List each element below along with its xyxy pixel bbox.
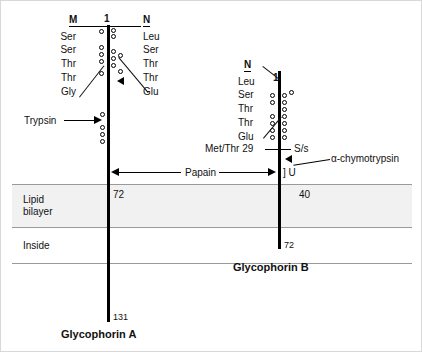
o-glycan (270, 100, 275, 105)
antigen-n-b-residue-2: Thr (238, 102, 253, 115)
o-glycan (270, 93, 275, 98)
chymotrypsin-arrow-head (285, 155, 292, 163)
antigen-m-residue-1: Ser (41, 43, 76, 56)
antigen-n-a-residue-1: Ser (143, 43, 159, 56)
antigen-n-b-residue-4: Glu (238, 130, 254, 143)
antigen-n-b-residue-3: Thr (238, 116, 253, 129)
o-glycan (99, 52, 104, 57)
o-glycan (111, 28, 116, 33)
glycophorin-b-title: Glycophorin B (233, 262, 309, 273)
antigen-n-label-a: N (143, 14, 150, 27)
o-glycan (99, 45, 104, 50)
antigen-m-residue-3: Thr (41, 71, 76, 84)
papain-arrow-line-left (119, 172, 181, 173)
o-glycan (270, 135, 275, 140)
glycophorin-a-title: Glycophorin A (61, 329, 136, 340)
chymotrypsin-label: α-chymotrypsin (331, 153, 399, 164)
o-glycan (118, 69, 123, 74)
antigen-m-residue-4: Gly (41, 85, 76, 98)
inside-boundary-line (12, 263, 412, 264)
antigen-n-b-residue-1: Ser (238, 88, 254, 101)
glycophorin-a-residue-72: 72 (113, 189, 124, 200)
antigen-m-residue-0: Ser (41, 30, 76, 43)
o-glycan (99, 59, 104, 64)
o-glycan (118, 53, 123, 58)
o-glycan (282, 114, 287, 119)
trypsin-arrow-head (94, 116, 102, 124)
glycophorin-a-terminus-tick (75, 26, 141, 27)
o-glycan (270, 114, 275, 119)
antigen-ss-label: S/s (294, 143, 308, 154)
glycophorin-membrane-diagram: Lipid bilayer Inside 1 M N Ser Ser Thr T… (0, 0, 422, 352)
glycophorin-a-residue-131: 131 (113, 312, 128, 323)
o-glycan (282, 93, 287, 98)
o-glycan (282, 107, 287, 112)
chymotrypsin-arrow-line (293, 159, 330, 166)
met-thr-29-tick (265, 149, 291, 150)
o-glycan (111, 49, 116, 54)
glycophorin-b-residue-72: 72 (284, 240, 294, 251)
antigen-n-label-b: N (244, 59, 251, 72)
antigen-n-a-residue-3: Thr (143, 71, 158, 84)
o-glycan (282, 128, 287, 133)
antigen-m-label: M (69, 14, 77, 27)
antigen-m-residue-2: Thr (41, 57, 76, 70)
o-glycan (100, 125, 105, 130)
glycophorin-b-chain (278, 71, 281, 249)
o-glycan (282, 100, 287, 105)
o-glycan (282, 135, 287, 140)
o-glycan (282, 121, 287, 126)
trypsin-label: Trypsin (24, 115, 56, 126)
lipid-bilayer-label-line2: bilayer (23, 206, 52, 217)
o-glycan (111, 34, 116, 39)
papain-arrow-line-right (219, 172, 269, 173)
o-glycan (111, 63, 116, 68)
antigen-n-a-residue-2: Thr (143, 57, 158, 70)
o-glycan (100, 139, 105, 144)
antigen-n-b-residue-0: Leu (238, 75, 255, 88)
lipid-bilayer-band (12, 184, 412, 227)
o-glycan (100, 132, 105, 137)
papain-arrow-head-right (268, 168, 276, 176)
met-thr-29-label: Met/Thr 29 (205, 143, 253, 154)
antigen-u-label: ] U (283, 167, 296, 178)
inside-label: Inside (23, 240, 50, 251)
o-glycan (270, 121, 275, 126)
glycophorin-a-position-1: 1 (104, 13, 110, 24)
papain-arrow-head-left (111, 168, 119, 176)
lipid-bilayer-label-line1: Lipid (23, 194, 44, 205)
o-glycan (270, 128, 275, 133)
o-glycan (289, 90, 294, 95)
trypsin-arrow-line (64, 120, 95, 121)
chain-a-cleavage-marker (117, 77, 124, 85)
papain-label: Papain (183, 167, 218, 178)
o-glycan (99, 29, 104, 34)
o-glycan (111, 56, 116, 61)
antigen-n-a-residue-0: Leu (143, 30, 160, 43)
membrane-outer-boundary-line (12, 184, 412, 185)
antigen-n-a-residue-4: Glu (143, 85, 159, 98)
glycophorin-b-residue-40: 40 (299, 189, 310, 200)
o-glycan (99, 71, 104, 76)
membrane-inner-boundary-line (12, 227, 412, 228)
glycophorin-a-chain (107, 25, 110, 322)
